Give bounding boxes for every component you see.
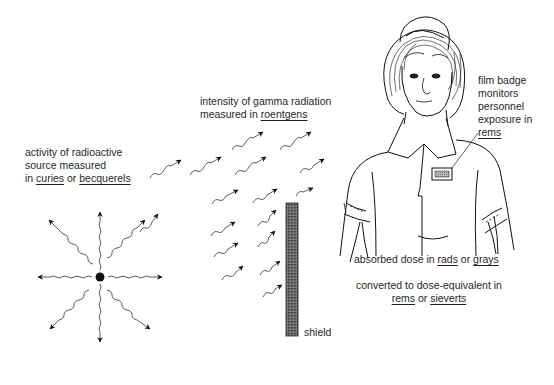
gamma-ray-icon	[296, 188, 313, 196]
unit-curies: curies	[36, 172, 64, 184]
ray-up-left-icon	[49, 220, 93, 264]
radioactive-source	[38, 212, 162, 342]
gamma-ray-icon	[232, 132, 263, 150]
gamma-ray-icon	[258, 231, 275, 247]
source-dot-icon	[96, 273, 105, 282]
ray-down-right-icon	[107, 290, 150, 329]
film-badge	[432, 133, 478, 180]
ray-down-left-icon	[50, 290, 89, 329]
unit-becquerels: becquerels	[79, 172, 130, 184]
collar-icon	[388, 118, 456, 158]
gamma-caption-line-2: measured in roentgens	[200, 108, 331, 121]
unit-rads: rads	[437, 253, 457, 265]
unit-roentgens: roentgens	[261, 108, 308, 120]
gamma-ray-icon	[258, 210, 276, 226]
gamma-ray-icon	[150, 160, 181, 178]
gamma-caption: intensity of gamma radiation measured in…	[200, 95, 331, 121]
source-caption-line-1: activity of radioactive	[25, 146, 131, 159]
gamma-ray-icon	[300, 159, 324, 173]
shield-label: shield	[304, 326, 331, 339]
gamma-ray-icon	[222, 266, 243, 280]
badge-caption: film badge monitors personnel exposure i…	[478, 74, 532, 139]
person-figure	[340, 17, 514, 262]
source-caption-line-3: in curies or becquerels	[25, 172, 131, 185]
absorbed-dose-caption: absorbed dose in rads or grays	[354, 253, 499, 266]
gamma-ray-icon	[140, 214, 158, 232]
source-caption: activity of radioactive source measured …	[25, 146, 131, 185]
gamma-ray-icon	[253, 189, 277, 203]
gamma-ray-icon	[235, 157, 266, 175]
source-caption-line-2: source measured	[25, 159, 131, 172]
badge-pointer-line	[452, 133, 478, 168]
unit-grays: grays	[473, 253, 499, 265]
unit-rems-badge: rems	[478, 126, 532, 139]
shield	[286, 203, 298, 336]
ray-up-right-icon	[107, 220, 145, 258]
ray-left-icon	[38, 276, 92, 278]
gamma-ray-icon	[212, 190, 238, 204]
shield-block-icon	[286, 203, 298, 336]
ray-down-icon	[99, 284, 101, 342]
dose-equivalent-caption: converted to dose-equivalent in rems or …	[354, 279, 504, 305]
gamma-ray-icon	[263, 285, 282, 297]
ray-up-icon	[99, 212, 101, 270]
unit-rems: rems	[392, 292, 415, 304]
gamma-caption-line-1: intensity of gamma radiation	[200, 95, 331, 108]
diagram-artwork	[0, 0, 554, 385]
unit-sieverts: sieverts	[430, 292, 466, 304]
ray-right-icon	[108, 276, 162, 278]
gamma-ray-icon	[214, 243, 238, 257]
gamma-ray-icon	[190, 157, 221, 175]
gamma-ray-icon	[280, 132, 311, 150]
gamma-ray-icon	[211, 222, 235, 236]
face-icon	[402, 66, 452, 116]
gamma-ray-icon	[260, 261, 280, 275]
